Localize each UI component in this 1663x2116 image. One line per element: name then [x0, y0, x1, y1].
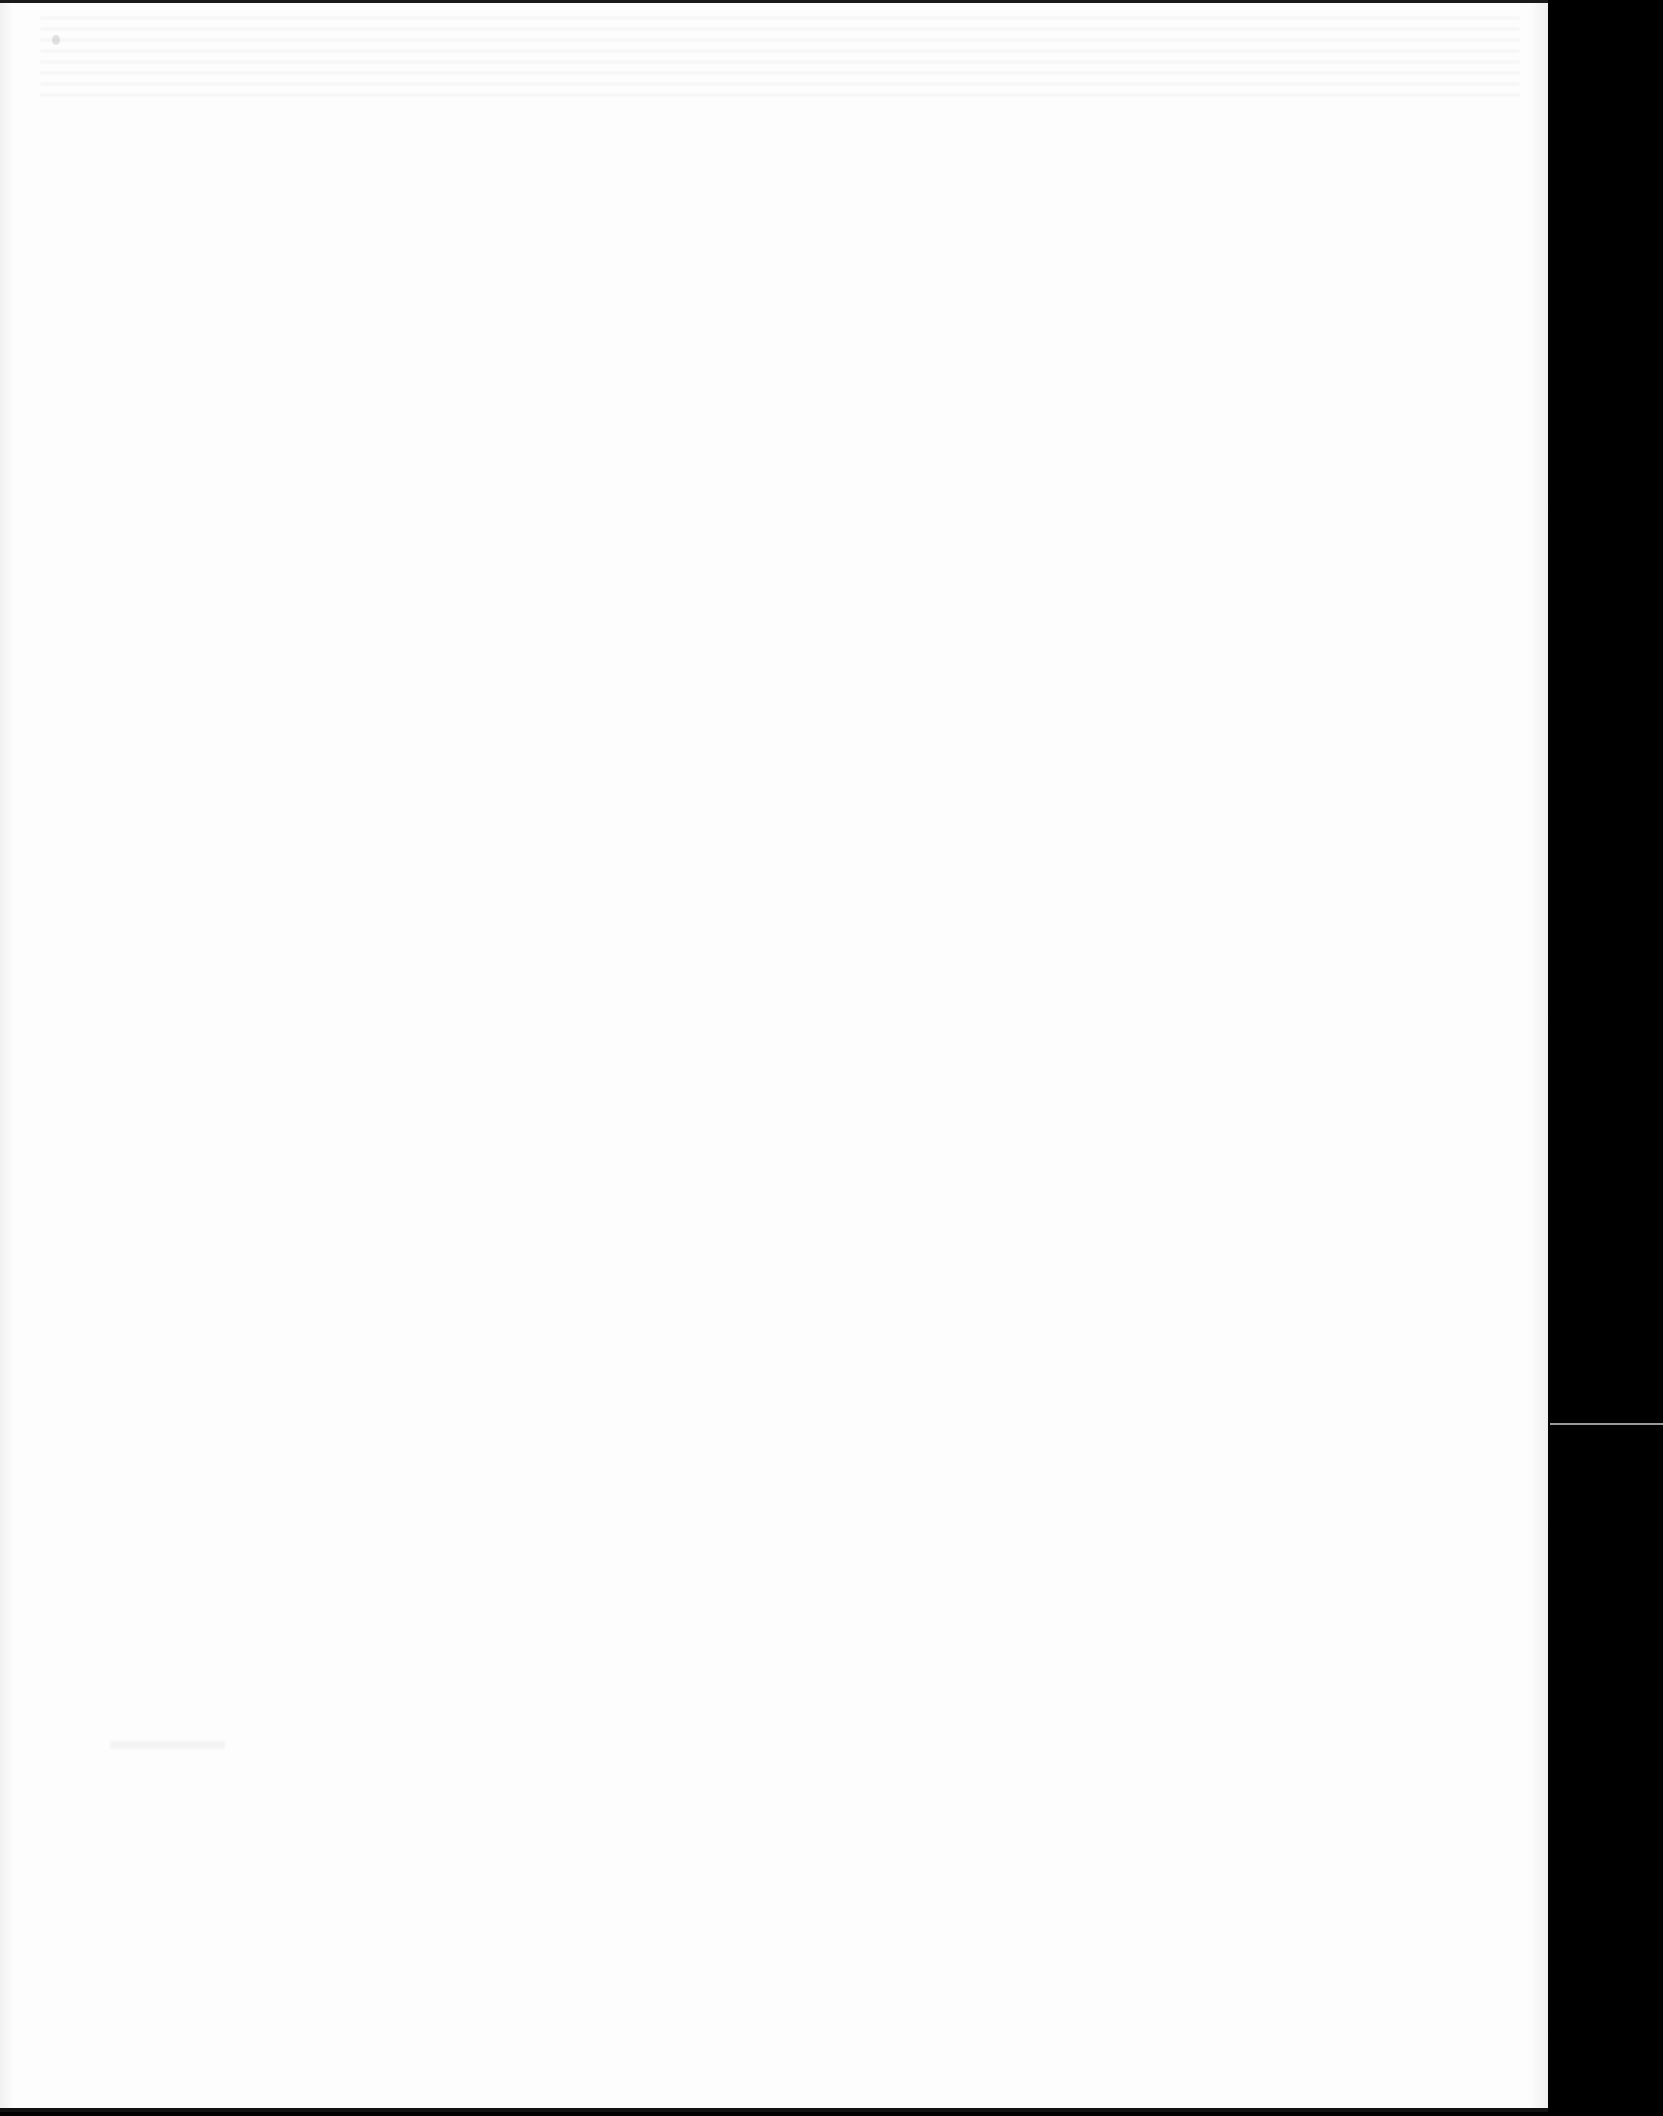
- scanned-document: [0, 0, 1663, 2116]
- reverse-side-bleed-through: [40, 17, 1520, 97]
- scanner-bed-edge-line: [1550, 1423, 1663, 1425]
- blank-page: [0, 0, 1548, 2112]
- reverse-side-bleed-fragment: [110, 1741, 225, 1749]
